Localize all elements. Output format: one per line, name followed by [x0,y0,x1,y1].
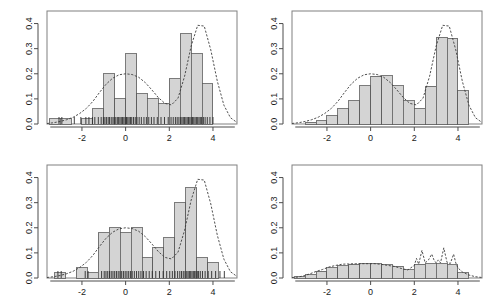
histogram-bar [447,265,458,278]
y-tick-label: 0.0 [24,118,34,131]
histogram-bar [208,263,219,278]
panel-bottom-right-plot: 0.00.10.20.30.4-2024 [245,154,489,308]
histogram-bar [360,264,371,278]
panel-bottom-left: 0.00.10.20.30.4-2024 [0,154,244,308]
y-tick-label: 0.0 [269,118,279,131]
histogram-bar [414,264,425,278]
y-tick-label: 0.4 [269,17,279,30]
x-tick-label: 0 [368,133,373,143]
y-tick-label: 0.1 [269,93,279,106]
histogram-bar [158,104,169,124]
histogram-bar [131,228,142,278]
y-tick-label: 0.4 [269,171,279,184]
y-tick-label: 0.1 [269,247,279,260]
histogram-bar [76,268,87,278]
histogram-bar [414,109,425,124]
x-axis: -2024 [295,127,480,143]
histogram-bar [126,54,137,124]
x-axis: -2024 [50,127,235,143]
x-tick-label: 2 [412,133,417,143]
histogram-bar [458,273,469,278]
x-tick-label: 0 [123,287,128,297]
panel-top-right-plot: 0.00.10.20.30.4-2024 [245,0,489,154]
histogram-bar [403,270,414,278]
x-axis: -2024 [295,281,480,297]
histogram-bar [137,94,148,124]
histogram-bar [403,101,414,124]
histogram-bar [371,264,382,278]
histogram-bar [349,101,360,124]
histogram-bar [338,266,349,278]
histogram-bar [382,265,393,278]
y-tick-label: 0.1 [24,93,34,106]
x-axis: -2024 [50,281,235,297]
histogram-bar [153,248,164,278]
y-tick-label: 0.3 [269,42,279,55]
histogram-bar [316,271,327,278]
histogram-bar [305,275,316,278]
y-axis: 0.00.10.20.30.4 [24,171,38,284]
histogram-bar [104,74,115,124]
figure-container: 0.00.10.20.30.4-2024 0.00.10.20.30.4-202… [0,0,489,308]
histogram-bar [458,91,469,124]
panel-top-left: 0.00.10.20.30.4-2024 [0,0,244,154]
y-tick-label: 0.4 [24,17,34,30]
histogram-bar [191,54,202,124]
panel-bottom-right: 0.00.10.20.30.4-2024 [245,154,489,308]
histogram-bar [82,119,93,124]
x-tick-label: 4 [210,287,215,297]
histogram-bar [436,264,447,278]
x-tick-label: -2 [323,287,331,297]
histogram-bar [349,264,360,278]
panel-bottom-left-plot: 0.00.10.20.30.4-2024 [0,154,244,308]
y-tick-label: 0.0 [269,272,279,285]
y-axis: 0.00.10.20.30.4 [269,171,283,284]
histogram-bar [305,122,316,124]
panel-top-left-plot: 0.00.10.20.30.4-2024 [0,0,244,154]
histogram-bar [360,86,371,124]
histogram-bar [87,273,98,278]
histogram-bar [316,121,327,124]
y-tick-label: 0.2 [269,222,279,235]
y-axis: 0.00.10.20.30.4 [24,17,38,130]
plot-frame [292,165,482,278]
x-tick-label: 2 [167,133,172,143]
histogram-bar [327,116,338,124]
histogram-bar [436,37,447,124]
histogram-bar [425,86,436,124]
x-tick-label: 4 [455,287,460,297]
histogram-bar [338,109,349,124]
histogram-bars [305,37,469,124]
histogram-bars [55,188,219,278]
y-tick-label: 0.1 [24,247,34,260]
y-tick-label: 0.4 [24,171,34,184]
x-tick-label: -2 [323,133,331,143]
x-tick-label: -2 [78,133,86,143]
y-tick-label: 0.0 [24,272,34,285]
histogram-bars [294,264,469,278]
y-tick-label: 0.3 [24,42,34,55]
y-tick-label: 0.3 [24,196,34,209]
x-tick-label: 0 [368,287,373,297]
x-tick-label: -2 [78,287,86,297]
panel-top-right: 0.00.10.20.30.4-2024 [245,0,489,154]
y-tick-label: 0.2 [269,68,279,81]
x-tick-label: 0 [123,133,128,143]
y-tick-label: 0.3 [269,196,279,209]
histogram-bars [49,34,213,124]
histogram-bar [327,268,338,278]
x-tick-label: 2 [412,287,417,297]
histogram-bar [180,34,191,124]
x-tick-label: 4 [210,133,215,143]
histogram-bar [371,76,382,124]
histogram-bar [425,264,436,278]
y-tick-label: 0.2 [24,68,34,81]
histogram-bar [175,203,186,278]
x-tick-label: 4 [455,133,460,143]
x-tick-label: 2 [167,287,172,297]
histogram-bar [109,228,120,278]
y-axis: 0.00.10.20.30.4 [269,17,283,130]
y-tick-label: 0.2 [24,222,34,235]
